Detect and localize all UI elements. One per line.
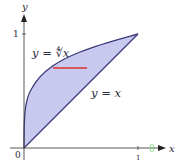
y-tick-label: 1 (13, 29, 19, 39)
curve-label-linear: y = x (90, 86, 121, 100)
x-axis-arrow-icon (158, 145, 166, 151)
green-marker-icon (150, 144, 155, 152)
origin-label: 0 (15, 150, 21, 160)
x-axis-label: x (169, 143, 175, 154)
x-tick-label: 1 (136, 154, 140, 161)
curve-label-fourth-root: y = ∜x (31, 46, 70, 60)
y-axis-arrow-icon (21, 14, 27, 22)
region-diagram: y x 0 1 1 y = ∜x y = x (0, 0, 176, 161)
y-axis-label: y (21, 1, 28, 12)
